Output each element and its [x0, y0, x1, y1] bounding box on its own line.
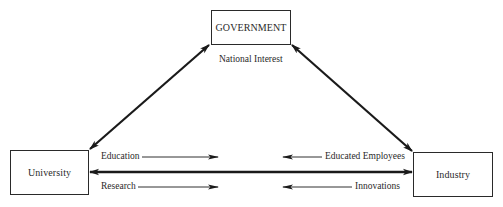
node-industry-label: Industry	[436, 169, 470, 180]
node-university-label: University	[28, 167, 71, 178]
edge-university-government	[90, 45, 209, 149]
research-label: Research	[101, 182, 136, 192]
national-interest-label: National Interest	[219, 55, 283, 65]
node-university: University	[10, 150, 89, 195]
educated-employees-label: Educated Employees	[325, 152, 405, 162]
innovations-label: Innovations	[355, 182, 400, 192]
triple-helix-diagram: GOVERNMENT University Industry National …	[0, 0, 503, 207]
education-label: Education	[101, 152, 140, 162]
node-industry: Industry	[413, 152, 493, 197]
node-government-label: GOVERNMENT	[216, 22, 287, 33]
node-government: GOVERNMENT	[211, 10, 291, 45]
edge-government-industry	[292, 45, 412, 151]
